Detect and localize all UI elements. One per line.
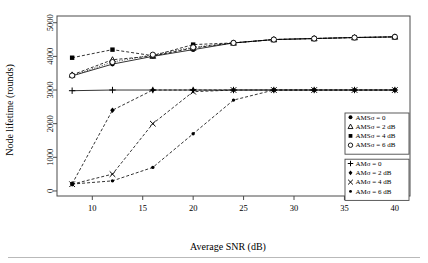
marker-filled-square: [110, 47, 114, 51]
x-tick-label: 25: [239, 203, 248, 213]
marker-small-filled-circle: [393, 88, 396, 91]
legend-entry[interactable]: AMSσ = 4 dB: [349, 132, 396, 140]
legend-label: AMσ = 2 dB: [356, 169, 392, 177]
marker-open-circle: [312, 36, 317, 41]
marker-small-filled-circle: [70, 182, 73, 185]
marker-open-circle: [70, 73, 75, 78]
marker-open-circle: [348, 143, 352, 147]
marker-filled-diamond: [151, 87, 156, 93]
legend-label: AMSσ = 6 dB: [356, 141, 396, 149]
marker-small-filled-circle: [111, 179, 114, 182]
legend-label: AMσ = 4 dB: [356, 178, 392, 186]
y-tick-label: 0: [45, 189, 55, 193]
marker-small-filled-circle: [272, 88, 275, 91]
marker-open-circle: [191, 45, 196, 50]
y-tick-label: 1000: [45, 149, 55, 166]
marker-filled-circle: [349, 115, 353, 119]
marker-open-circle: [231, 40, 236, 45]
legend-entry[interactable]: AMσ = 6 dB: [349, 188, 392, 196]
legend-label: AMSσ = 0: [356, 114, 386, 122]
y-tick-label: 4000: [45, 48, 55, 65]
marker-small-filled-circle: [151, 166, 154, 169]
marker-small-filled-circle: [353, 88, 356, 91]
legend-label: AMSσ = 4 dB: [356, 132, 396, 140]
y-tick-label: 5000: [45, 14, 55, 31]
x-tick-label: 10: [88, 203, 97, 213]
marker-open-circle: [352, 35, 357, 40]
y-axis-ticks: 010002000300040005000: [45, 14, 57, 193]
x-tick-label: 35: [340, 203, 349, 213]
y-tick-label: 2000: [45, 115, 55, 132]
legend-entry[interactable]: AMσ = 4 dB: [348, 178, 392, 186]
series-4: [70, 34, 398, 78]
legend-label: AMσ = 6 dB: [356, 188, 392, 196]
series-3: [70, 35, 397, 60]
legend-entry[interactable]: AMσ = 2 dB: [349, 169, 392, 177]
marker-small-filled-circle: [312, 88, 315, 91]
legend-entry[interactable]: AMSσ = 6 dB: [348, 141, 395, 149]
x-tick-label: 40: [391, 203, 400, 213]
x-tick-label: 30: [290, 203, 299, 213]
legend-label: AMSσ = 2 dB: [356, 123, 396, 131]
marker-filled-diamond: [110, 107, 115, 113]
figure-container: 010002000300040005000 10152025303540 AMS…: [0, 0, 428, 263]
x-axis-title: Average SNR (dB): [190, 241, 266, 253]
marker-small-filled-circle: [191, 132, 194, 135]
marker-small-filled-circle: [232, 98, 235, 101]
y-tick-label: 3000: [45, 82, 55, 99]
footer-divider: [8, 257, 420, 258]
marker-open-circle: [110, 59, 115, 64]
marker-open-circle: [392, 34, 397, 39]
node-lifetime-vs-snr-chart: 010002000300040005000 10152025303540 AMS…: [0, 0, 428, 263]
marker-open-circle: [271, 37, 276, 42]
legend-label: AMσ = 0: [356, 160, 383, 168]
x-tick-label: 15: [138, 203, 147, 213]
marker-small-filled-circle: [349, 190, 352, 193]
chart-legend: AMSσ = 0AMSσ = 2 dBAMSσ = 4 dBAMSσ = 6 d…: [345, 113, 409, 200]
legend-entry[interactable]: AMSσ = 2 dB: [348, 123, 396, 131]
marker-filled-square: [70, 56, 74, 60]
x-tick-label: 20: [189, 203, 198, 213]
y-axis-title: Node lifetime (rounds): [4, 64, 16, 156]
marker-open-circle: [150, 52, 155, 57]
marker-filled-square: [349, 134, 353, 138]
